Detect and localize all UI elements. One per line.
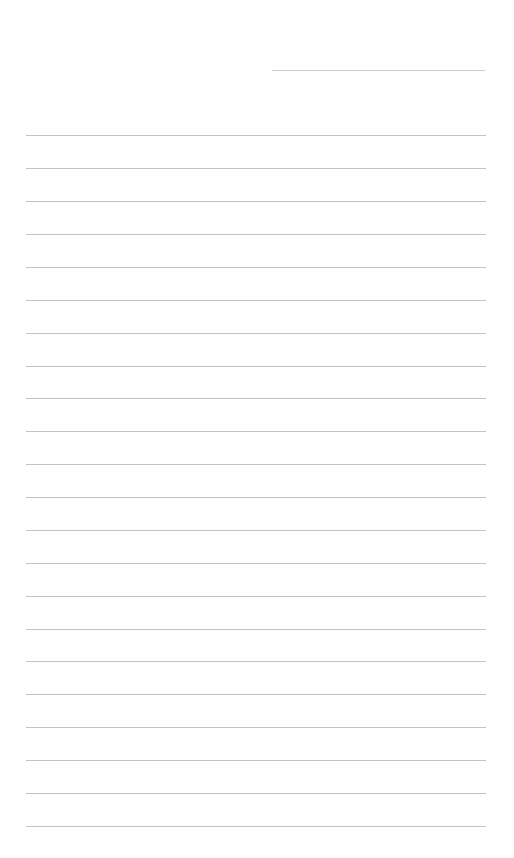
ruled-line	[26, 727, 486, 728]
ruled-line	[26, 201, 486, 202]
ruled-line	[26, 234, 486, 235]
ruled-line	[26, 629, 486, 630]
header-date-line	[272, 70, 485, 71]
ruled-line	[26, 497, 486, 498]
ruled-line	[26, 168, 486, 169]
ruled-line	[26, 464, 486, 465]
ruled-line	[26, 398, 486, 399]
lined-paper-page	[0, 0, 514, 858]
ruled-line	[26, 793, 486, 794]
ruled-line	[26, 530, 486, 531]
ruled-line	[26, 431, 486, 432]
ruled-line	[26, 366, 486, 367]
ruled-line	[26, 135, 486, 136]
ruled-line	[26, 826, 486, 827]
ruled-line	[26, 661, 486, 662]
ruled-line	[26, 760, 486, 761]
ruled-line	[26, 333, 486, 334]
ruled-line	[26, 563, 486, 564]
ruled-line	[26, 596, 486, 597]
ruled-line	[26, 694, 486, 695]
ruled-line	[26, 300, 486, 301]
ruled-line	[26, 267, 486, 268]
